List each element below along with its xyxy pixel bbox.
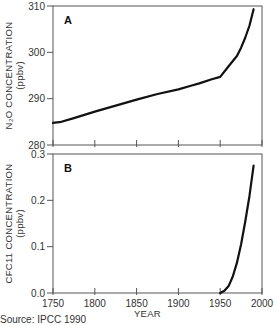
plot-frame bbox=[53, 6, 262, 145]
x-tick-label: 2000 bbox=[251, 298, 274, 309]
y-tick-label: 300 bbox=[28, 47, 45, 58]
panel-label: A bbox=[64, 14, 72, 26]
y-axis-title: N₂O CONCENTRATION bbox=[3, 22, 14, 130]
x-tick-label: 1950 bbox=[209, 298, 232, 309]
panel-b-cfc11: 1750180018501900195020000.00.10.20.3BCFC… bbox=[3, 149, 274, 320]
y-tick-label: 0.1 bbox=[31, 241, 45, 252]
chart: 280290300310AN₂O CONCENTRATION(ppbv) 175… bbox=[0, 0, 277, 325]
y-tick-label: 310 bbox=[28, 1, 45, 12]
y-axis-title: CFC11 CONCENTRATION bbox=[3, 164, 14, 284]
y-axis-unit: (ppbv) bbox=[14, 209, 25, 238]
source-note: Source: IPCC 1990 bbox=[0, 314, 86, 325]
x-tick-label: 1900 bbox=[167, 298, 190, 309]
y-axis-unit: (ppbv) bbox=[14, 61, 25, 90]
x-tick-label: 1800 bbox=[84, 298, 107, 309]
panel-a-n2o: 280290300310AN₂O CONCENTRATION(ppbv) bbox=[3, 1, 262, 151]
y-tick-label: 0.0 bbox=[31, 288, 45, 299]
series-line-cfc11 bbox=[220, 166, 253, 293]
y-tick-label: 290 bbox=[28, 93, 45, 104]
plot-frame bbox=[53, 154, 262, 293]
series-line-n2o bbox=[53, 9, 254, 123]
x-tick-label: 1750 bbox=[42, 298, 65, 309]
y-tick-label: 0.2 bbox=[31, 195, 45, 206]
panel-label: B bbox=[64, 162, 72, 174]
y-tick-label: 0.3 bbox=[31, 149, 45, 160]
x-axis-title: YEAR bbox=[134, 308, 161, 319]
